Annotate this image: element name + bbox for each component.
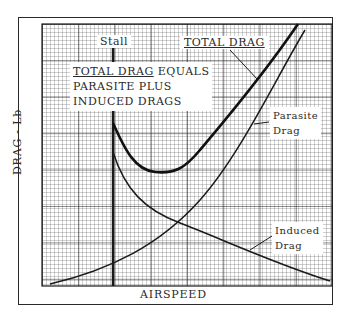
x-axis-label: AIRSPEED [140,288,207,301]
induced-label-line-1: Induced [275,223,320,238]
y-axis-label: DRAG - Lb [11,109,24,175]
induced-label-line-2: Drag [275,238,320,253]
parasite-drag-label: Parasite Drag [270,107,321,139]
equation-total-drag: TOTAL DRAG [73,65,154,78]
equation-box: TOTAL DRAG EQUALS PARASITE PLUS INDUCED … [70,62,212,111]
equation-line-2: PARASITE PLUS [73,79,209,94]
drag-chart [0,0,351,314]
stall-label: Stall [97,35,131,48]
equation-line-1: TOTAL DRAG EQUALS [73,64,209,79]
total-drag-label: TOTAL DRAG [180,36,269,49]
equation-equals: EQUALS [154,65,210,78]
equation-line-3: INDUCED DRAGS [73,94,209,109]
parasite-label-line-1: Parasite [273,108,318,123]
parasite-label-line-2: Drag [273,123,318,138]
induced-drag-label: Induced Drag [272,222,323,254]
